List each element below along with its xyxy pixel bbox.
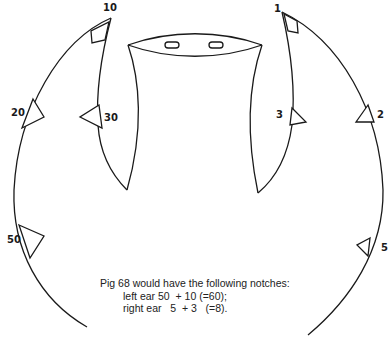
- caption-line-3: right ear 5 + 3 (=8).: [100, 302, 290, 315]
- notch-label-2: 2: [377, 110, 384, 120]
- caption-line-2: left ear 50 + 10 (=60);: [100, 290, 290, 303]
- notch-label-50: 50: [7, 235, 21, 245]
- notch-label-3: 3: [276, 110, 283, 120]
- left-head-edge: [127, 45, 138, 190]
- notch-3-icon: [290, 108, 306, 125]
- notch-50-icon: [19, 225, 44, 258]
- notch-label-30: 30: [104, 113, 118, 123]
- left-ear-outer-edge: [14, 18, 111, 327]
- snout-top: [128, 34, 262, 45]
- notch-label-5: 5: [381, 243, 388, 253]
- left-nostril-icon: [165, 42, 179, 48]
- notch-label-1: 1: [274, 4, 281, 14]
- right-ear-outer-edge: [282, 12, 383, 335]
- notch-2-icon: [356, 105, 374, 122]
- right-ear-inner-edge: [258, 12, 293, 193]
- notch-30-icon: [80, 105, 102, 128]
- left-ear-inner-edge: [98, 18, 127, 190]
- notch-label-20: 20: [11, 108, 25, 118]
- notch-20-icon: [22, 99, 44, 128]
- right-head-edge: [250, 45, 262, 193]
- right-nostril-icon: [209, 42, 223, 48]
- notch-label-10: 10: [103, 3, 117, 13]
- snout-bottom: [128, 45, 262, 56]
- caption: Pig 68 would have the following notches:…: [100, 277, 290, 315]
- caption-line-1: Pig 68 would have the following notches:: [100, 277, 290, 290]
- notch-5-icon: [357, 238, 370, 256]
